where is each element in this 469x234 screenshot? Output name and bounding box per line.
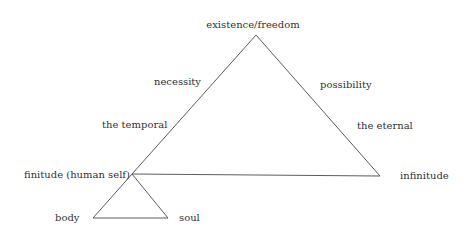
edge-finitude-soul (132, 174, 168, 218)
edge-finitude-infinitude (132, 174, 380, 176)
label-finitude: finitude (human self) (24, 169, 130, 180)
label-soul: soul (179, 212, 200, 223)
label-possibility: possibility (320, 79, 372, 90)
label-infinitude: infinitude (400, 170, 449, 181)
triangle-diagram: existence/freedom necessity possibility … (0, 0, 469, 234)
edge-finitude-body (93, 174, 132, 218)
label-the-temporal: the temporal (102, 119, 167, 130)
label-the-eternal: the eternal (357, 120, 413, 131)
edge-existence-infinitude (256, 35, 380, 176)
label-necessity: necessity (154, 76, 201, 87)
label-existence-freedom: existence/freedom (206, 19, 300, 30)
edge-existence-finitude (132, 35, 256, 174)
label-body: body (55, 212, 80, 223)
